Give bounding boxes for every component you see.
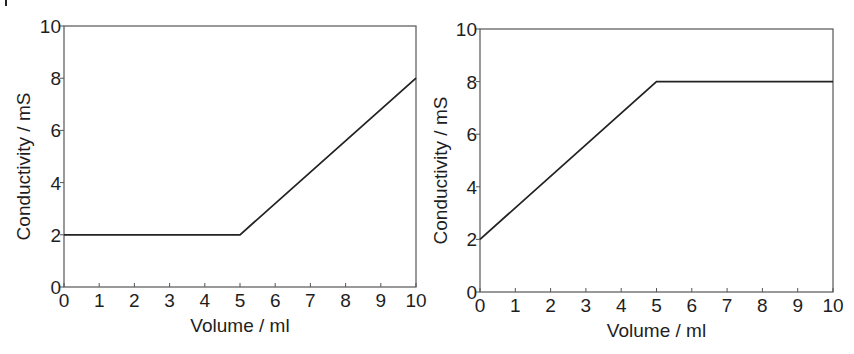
- data-line: [480, 82, 833, 240]
- y-tick-label: 4: [50, 173, 61, 194]
- plot-frame: [480, 29, 833, 292]
- x-tick-label: 7: [722, 295, 733, 316]
- x-tick-label: 4: [200, 290, 211, 311]
- y-tick-label: 0: [466, 282, 477, 303]
- x-tick-label: 4: [616, 295, 627, 316]
- x-tick-label: 10: [405, 290, 426, 311]
- y-tick-label: 8: [50, 68, 61, 89]
- x-tick-label: 8: [340, 290, 351, 311]
- x-tick-label: 9: [376, 290, 387, 311]
- y-tick-label: 2: [466, 229, 477, 250]
- data-line: [64, 78, 416, 235]
- y-tick-label: 6: [466, 124, 477, 145]
- y-tick-label: 4: [466, 177, 477, 198]
- x-tick-label: 2: [129, 290, 140, 311]
- x-axis-title: Volume / ml: [190, 315, 289, 336]
- x-tick-label: 5: [651, 295, 662, 316]
- x-tick-label: 5: [235, 290, 246, 311]
- corner-mark: [5, 0, 7, 6]
- figure: 0123456789100246810Volume / mlConductivi…: [0, 0, 854, 354]
- y-axis-title: Conductivity / mS: [430, 97, 451, 245]
- y-tick-label: 10: [456, 19, 477, 40]
- y-tick-label: 6: [50, 120, 61, 141]
- x-tick-label: 6: [270, 290, 281, 311]
- x-tick-label: 2: [545, 295, 556, 316]
- y-tick-label: 2: [50, 225, 61, 246]
- y-axis-title: Conductivity / mS: [13, 93, 34, 241]
- y-tick-label: 8: [466, 72, 477, 93]
- x-axis-title: Volume / ml: [607, 320, 706, 341]
- x-tick-label: 8: [757, 295, 768, 316]
- x-tick-label: 7: [305, 290, 316, 311]
- x-tick-label: 9: [792, 295, 803, 316]
- x-tick-label: 3: [581, 295, 592, 316]
- x-tick-label: 1: [510, 295, 521, 316]
- x-tick-label: 10: [822, 295, 843, 316]
- left-chart: 0123456789100246810Volume / mlConductivi…: [13, 16, 427, 336]
- y-tick-label: 0: [50, 277, 61, 298]
- y-tick-label: 10: [40, 16, 61, 37]
- x-tick-label: 1: [94, 290, 105, 311]
- x-tick-label: 6: [687, 295, 698, 316]
- right-chart: 0123456789100246810Volume / mlConductivi…: [430, 19, 844, 341]
- plot-frame: [64, 26, 416, 287]
- charts-canvas: 0123456789100246810Volume / mlConductivi…: [0, 0, 854, 354]
- x-tick-label: 3: [164, 290, 175, 311]
